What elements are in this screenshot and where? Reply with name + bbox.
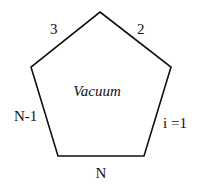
side-label-n-minus-1: N-1 <box>14 108 37 124</box>
pentagon-diagram: 3 2 Vacuum N-1 i =1 N <box>0 0 198 189</box>
center-label-vacuum: Vacuum <box>73 83 121 99</box>
side-label-n: N <box>96 165 107 181</box>
side-label-2: 2 <box>137 21 145 37</box>
side-label-i-equals-1: i =1 <box>163 115 187 131</box>
side-label-3: 3 <box>50 21 58 37</box>
